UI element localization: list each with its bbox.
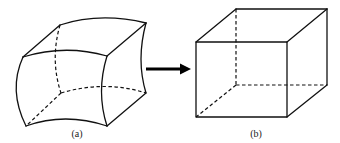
panel-label-b: (b) (250, 128, 262, 140)
front-face-b (196, 42, 287, 117)
bottom-right-edge-b (287, 85, 327, 117)
top-right-edge-a (107, 23, 146, 56)
mapping-arrow (146, 64, 191, 75)
front-left-edge-a (16, 57, 26, 126)
top-front-edge-a (23, 50, 107, 57)
front-right-edge-a (102, 56, 108, 126)
regular-cube: (b) (196, 9, 327, 140)
mapping-diagram: (a) (b) (0, 0, 340, 143)
hidden-vertical-edge-a (55, 25, 61, 93)
top-back-edge-a (60, 18, 146, 25)
hidden-bottom-back-edge-a (61, 87, 146, 94)
curved-hexahedron: (a) (16, 18, 146, 140)
arrow-head-icon (180, 64, 191, 75)
front-bottom-edge-a (26, 119, 107, 126)
hidden-bottom-left-edge-b (196, 85, 236, 117)
bottom-right-edge-a (107, 93, 146, 126)
panel-label-a: (a) (71, 128, 82, 140)
top-right-edge-b (287, 9, 327, 42)
back-right-edge-a (141, 23, 146, 93)
top-left-edge-b (196, 9, 236, 42)
